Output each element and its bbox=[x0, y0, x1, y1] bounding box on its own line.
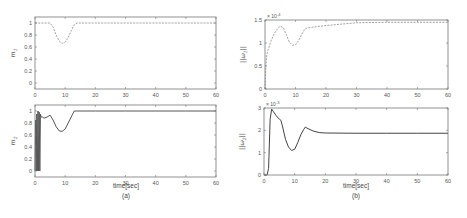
x-tick-label: 60 bbox=[445, 178, 451, 184]
x-tick-label: 0 bbox=[263, 92, 266, 98]
y-multiplier: × 10-3 bbox=[266, 100, 280, 108]
y-axis-label: m2 bbox=[9, 136, 18, 145]
caption-b: (b) bbox=[352, 192, 360, 200]
x-tick-label: 50 bbox=[183, 92, 189, 98]
plot-a-top: 010203040506000.20.40.60.81m1 bbox=[9, 17, 219, 98]
x-tick-label: 60 bbox=[213, 92, 219, 98]
y-axis-label: ||ω1|| bbox=[239, 46, 248, 63]
x-tick-label: 30 bbox=[353, 92, 359, 98]
xlabel-a: time[sec] bbox=[113, 182, 139, 190]
y-axis-label: ||ω2|| bbox=[238, 133, 247, 150]
x-tick-label: 30 bbox=[122, 92, 128, 98]
axes-box bbox=[264, 108, 448, 175]
x-tick-label: 20 bbox=[92, 180, 98, 186]
y-tick-label: 0.5 bbox=[254, 63, 262, 69]
x-tick-label: 40 bbox=[153, 92, 159, 98]
y-tick-label: 0 bbox=[29, 80, 32, 86]
y-tick-label: 1 bbox=[29, 20, 32, 26]
y-tick-label: 0.6 bbox=[24, 132, 32, 138]
figure: 010203040506000.20.40.60.81m1 0102030405… bbox=[0, 0, 467, 218]
y-tick-label: 1 bbox=[258, 150, 261, 156]
axes-box bbox=[35, 105, 216, 177]
x-tick-label: 40 bbox=[153, 180, 159, 186]
y-tick-label: 0.2 bbox=[24, 68, 32, 74]
x-tick-label: 60 bbox=[445, 92, 451, 98]
x-tick-label: 60 bbox=[213, 180, 219, 186]
y-tick-label: 1 bbox=[259, 40, 262, 46]
series-line-m2 bbox=[35, 111, 216, 171]
y-tick-label: 0 bbox=[259, 86, 262, 92]
x-tick-label: 40 bbox=[384, 178, 390, 184]
x-tick-label: 20 bbox=[92, 92, 98, 98]
y-tick-label: 0 bbox=[258, 172, 261, 178]
y-multiplier: × 10-4 bbox=[267, 12, 281, 20]
y-tick-label: 1.5 bbox=[254, 17, 262, 23]
x-tick-label: 0 bbox=[33, 180, 36, 186]
x-tick-label: 50 bbox=[414, 92, 420, 98]
series-line-omega2 bbox=[264, 109, 448, 175]
caption-a: (a) bbox=[122, 192, 130, 200]
x-tick-label: 40 bbox=[384, 92, 390, 98]
axes-box bbox=[265, 20, 448, 89]
x-tick-label: 20 bbox=[322, 178, 328, 184]
y-tick-label: 0.6 bbox=[24, 44, 32, 50]
x-tick-label: 20 bbox=[323, 92, 329, 98]
y-tick-label: 0 bbox=[29, 168, 32, 174]
x-tick-label: 50 bbox=[414, 178, 420, 184]
plot-b-top: 010203040506000.511.5× 10-4||ω1|| bbox=[239, 12, 451, 99]
y-tick-label: 0.4 bbox=[24, 56, 32, 62]
y-tick-label: 1 bbox=[29, 108, 32, 114]
y-tick-label: 0.2 bbox=[24, 156, 32, 162]
y-tick-label: 0.8 bbox=[24, 32, 32, 38]
x-tick-label: 0 bbox=[262, 178, 265, 184]
series-line-m1 bbox=[35, 23, 216, 43]
series-line-omega1 bbox=[265, 22, 448, 89]
x-tick-label: 10 bbox=[62, 180, 68, 186]
x-tick-label: 10 bbox=[62, 92, 68, 98]
plot-b-bottom: 01020304050600123× 10-3||ω2|| bbox=[238, 100, 451, 185]
x-tick-label: 10 bbox=[292, 92, 298, 98]
y-tick-label: 2 bbox=[258, 127, 261, 133]
x-tick-label: 0 bbox=[33, 92, 36, 98]
y-tick-label: 0.8 bbox=[24, 120, 32, 126]
xlabel-b: time[sec] bbox=[343, 182, 369, 190]
y-axis-label: m1 bbox=[9, 48, 18, 57]
axes-box bbox=[35, 17, 216, 89]
x-tick-label: 50 bbox=[183, 180, 189, 186]
plot-a-bottom: 010203040506000.20.40.60.81m2 bbox=[9, 105, 219, 186]
y-tick-label: 0.4 bbox=[24, 144, 32, 150]
x-tick-label: 10 bbox=[292, 178, 298, 184]
y-tick-label: 3 bbox=[258, 105, 261, 111]
